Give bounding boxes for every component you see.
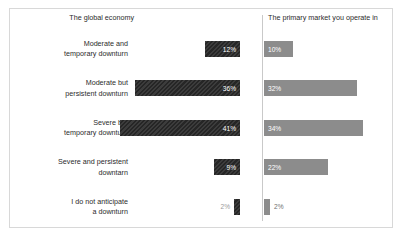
category-label-line1: Severe but (10, 117, 128, 128)
bar-value-label-primary-market: 10% (268, 45, 281, 52)
bar-track-global-economy: 41% (120, 120, 240, 136)
category-label: Severe and persistentdowntarn (10, 157, 128, 178)
column-header-global-economy: The global economy (69, 13, 139, 23)
bar-value-label-primary-market: 2% (274, 203, 284, 210)
bar-value-label-global-economy: 9% (226, 164, 236, 171)
category-label-line1: Severe and persistent (10, 157, 128, 168)
chart-frame: The global economy The primary market yo… (9, 8, 393, 228)
bar-track-primary-market: 2% (264, 199, 284, 215)
chart-row: Severe buttemporary downturn41%34% (10, 108, 392, 148)
category-label-line2: a downturn (10, 207, 128, 218)
category-label: Severe buttemporary downturn (10, 117, 128, 138)
category-label-line1: Moderate and (10, 38, 128, 49)
bar-track-global-economy: 9% (214, 159, 240, 175)
category-label-line1: I do not anticipate (10, 196, 128, 207)
bar-primary-market[interactable]: 34% (264, 120, 363, 136)
category-label-line2: temporary downturn (10, 49, 128, 60)
category-label: Moderate andtemporary downturn (10, 38, 128, 59)
category-label-line2: downtarn (10, 167, 128, 178)
bar-value-label-global-economy: 36% (223, 85, 236, 92)
category-label-line1: Moderate but (10, 78, 128, 89)
bar-value-label-global-economy: 41% (223, 124, 236, 131)
bar-track-primary-market: 10% (264, 41, 293, 57)
bar-track-global-economy: 2% (220, 199, 240, 215)
category-label-line2: persistent downturn (10, 88, 128, 99)
bar-value-label-primary-market: 34% (268, 124, 281, 131)
category-label: I do not anticipatea downturn (10, 196, 128, 217)
bar-value-label-global-economy: 2% (220, 203, 230, 210)
bar-global-economy[interactable]: 9% (214, 159, 240, 175)
bar-global-economy[interactable] (234, 199, 240, 215)
chart-row: I do not anticipatea downturn2%2% (10, 187, 392, 227)
bar-primary-market[interactable]: 10% (264, 41, 293, 57)
bar-value-label-primary-market: 22% (268, 164, 281, 171)
bar-track-global-economy: 12% (205, 41, 240, 57)
chart-column-headers: The global economy The primary market yo… (10, 9, 392, 29)
chart-row: Moderate andtemporary downturn12%10% (10, 29, 392, 69)
category-label-line2: temporary downturn (10, 128, 128, 139)
chart-rows-container: Moderate andtemporary downturn12%10%Mode… (10, 29, 392, 227)
bar-track-primary-market: 32% (264, 80, 357, 96)
bar-global-economy[interactable]: 36% (135, 80, 240, 96)
bar-global-economy[interactable]: 41% (120, 120, 240, 136)
chart-row: Moderate butpersistent downturn36%32% (10, 69, 392, 109)
column-header-primary-market: The primary market you operate in (263, 13, 378, 23)
bar-track-global-economy: 36% (135, 80, 240, 96)
chart-row: Severe and persistentdowntarn9%22% (10, 148, 392, 188)
bar-track-primary-market: 34% (264, 120, 363, 136)
bar-value-label-primary-market: 32% (268, 85, 281, 92)
bar-primary-market[interactable] (264, 199, 270, 215)
bar-primary-market[interactable]: 22% (264, 159, 328, 175)
bar-value-label-global-economy: 12% (223, 45, 236, 52)
category-label: Moderate butpersistent downturn (10, 78, 128, 99)
bar-track-primary-market: 22% (264, 159, 328, 175)
bar-global-economy[interactable]: 12% (205, 41, 240, 57)
bar-primary-market[interactable]: 32% (264, 80, 357, 96)
